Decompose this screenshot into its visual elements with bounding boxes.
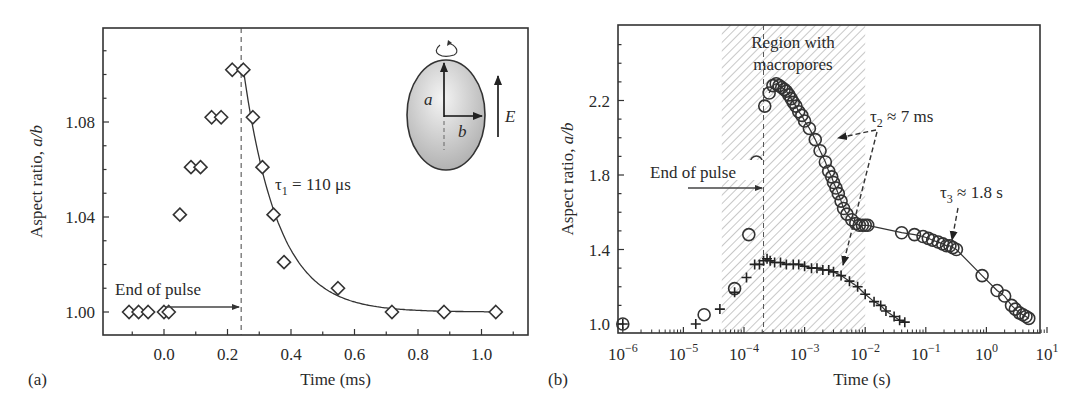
x-tick-label: 100	[975, 341, 998, 364]
x-tick-label: 10−5	[669, 341, 699, 364]
x-tick-label: 0.6	[344, 345, 365, 364]
diamond-marker	[237, 63, 250, 76]
x-tick-label: 0.0	[153, 345, 174, 364]
x-tick-label: 10−1	[911, 341, 941, 364]
x-tick-label: 10−6	[608, 341, 638, 364]
figure: 0.00.20.40.60.81.01.001.041.08 abE Time …	[0, 0, 1077, 410]
tau2-label: τ2 ≈ 7 ms	[870, 107, 933, 130]
rotation-icon	[436, 43, 457, 56]
vesicle-ellipse	[407, 60, 485, 170]
y-tick-label: 1.8	[589, 166, 610, 185]
circle-marker	[698, 309, 710, 321]
end-of-pulse-label: End of pulse	[115, 280, 201, 299]
y-tick-label: 1.0	[589, 315, 610, 334]
x-tick-label: 10−2	[850, 341, 880, 364]
tau3-arrow	[952, 208, 958, 240]
region-label-line1: Region with	[751, 33, 835, 52]
y-axis-label: Aspect ratio, a/b	[27, 125, 46, 238]
plus-marker	[900, 317, 910, 327]
field-e-label: E	[504, 107, 516, 126]
diamond-marker	[256, 161, 269, 174]
diamond-marker	[489, 306, 502, 319]
y-tick-label: 2.2	[589, 92, 610, 111]
panel-b-chart: 10−610−510−410−310−210−11001011.01.41.82…	[548, 25, 1059, 389]
x-tick-label: 101	[1036, 341, 1059, 364]
panel-a-chart: 0.00.20.40.60.81.01.001.041.08 abE Time …	[27, 28, 528, 389]
diamond-marker	[331, 282, 344, 295]
diamond-marker	[278, 256, 291, 269]
x-tick-label: 10−4	[729, 341, 759, 364]
region-label-line2: macropores	[753, 55, 832, 74]
diamond-marker	[142, 306, 155, 319]
x-tick-label: 10−3	[790, 341, 820, 364]
ellipse-inset: abE	[407, 40, 516, 170]
y-tick-label: 1.04	[65, 208, 95, 227]
y-tick-label: 1.4	[589, 241, 611, 260]
diamond-marker	[267, 208, 280, 221]
x-axis-label: Time (s)	[833, 370, 890, 389]
diamond-marker	[194, 161, 207, 174]
tau1-label: τ1 = 110 μs	[275, 175, 351, 198]
axis-a-label: a	[424, 90, 433, 109]
diamond-marker	[246, 111, 259, 124]
diamond-marker	[173, 208, 186, 221]
diamond-marker	[215, 111, 228, 124]
x-tick-label: 0.4	[280, 345, 302, 364]
tau3-label: τ3 ≈ 1.8 s	[940, 183, 1003, 206]
plus-marker	[691, 319, 701, 329]
y-tick-label: 1.00	[65, 303, 95, 322]
x-tick-label: 0.8	[407, 345, 428, 364]
end-of-pulse-label: End of pulse	[650, 163, 736, 182]
x-tick-label: 0.2	[217, 345, 238, 364]
plus-marker	[618, 319, 628, 329]
figure-svg: 0.00.20.40.60.81.01.001.041.08 abE Time …	[0, 0, 1077, 410]
y-axis-label: Aspect ratio, a/b	[558, 123, 577, 236]
diamond-marker	[438, 306, 451, 319]
panel-label-b: (b)	[548, 370, 568, 389]
axis-b-label: b	[458, 122, 467, 141]
x-axis-label: Time (ms)	[300, 370, 371, 389]
x-tick-label: 1.0	[471, 345, 492, 364]
y-tick-label: 1.08	[65, 113, 95, 132]
panel-label-a: (a)	[28, 370, 47, 389]
